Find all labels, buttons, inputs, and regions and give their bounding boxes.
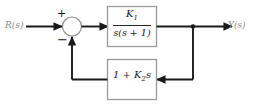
forward-block-denominator: s(s + 1) bbox=[108, 27, 156, 38]
forward-block-expression: K1 s(s + 1) bbox=[108, 8, 156, 38]
output-signal-label: Y(s) bbox=[228, 20, 246, 30]
feedback-prefix: 1 + bbox=[113, 69, 134, 80]
feedback-variable: s bbox=[146, 69, 151, 80]
block-diagram-canvas: R(s) Y(s) + − K1 s(s + 1) 1 + K2s bbox=[0, 0, 256, 105]
input-signal-label: R(s) bbox=[5, 20, 23, 30]
fraction-bar bbox=[113, 25, 151, 26]
feedback-gain-symbol: K bbox=[134, 69, 141, 80]
sum-plus-sign: + bbox=[57, 8, 66, 19]
forward-gain-symbol: K bbox=[126, 8, 133, 19]
sum-minus-sign: − bbox=[57, 33, 68, 46]
forward-block-numerator: K1 bbox=[108, 8, 156, 24]
feedback-block-expression: 1 + K2s bbox=[108, 69, 156, 85]
forward-gain-subscript: 1 bbox=[134, 14, 138, 22]
